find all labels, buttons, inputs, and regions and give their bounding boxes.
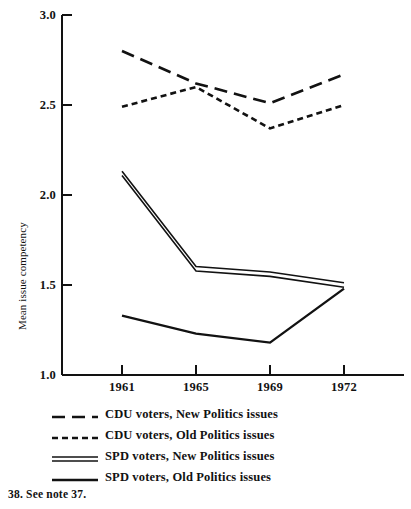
legend-item-spd-old: SPD voters, Old Politics issues xyxy=(52,467,392,488)
legend-item-cdu-new: CDU voters, New Politics issues xyxy=(52,404,392,425)
footnote-text: 38. See note 37. xyxy=(8,488,86,500)
legend-item-spd-new: SPD voters, New Politics issues xyxy=(52,446,392,467)
axis-lines xyxy=(62,15,404,375)
legend-label-cdu-old: CDU voters, Old Politics issues xyxy=(105,428,275,443)
legend-swatch-long-dash xyxy=(52,409,98,421)
legend-label-spd-new: SPD voters, New Politics issues xyxy=(105,449,275,464)
series-line-0 xyxy=(122,51,344,103)
series-line-2 xyxy=(122,171,344,283)
data-series-layer xyxy=(122,51,344,343)
legend-swatch-double-solid xyxy=(52,451,98,463)
plot-area xyxy=(0,0,411,400)
figure-container: Mean issue competency 3.0 2.5 2.0 1.5 1.… xyxy=(0,0,411,509)
series-line-1 xyxy=(122,87,344,128)
legend-item-cdu-old: CDU voters, Old Politics issues xyxy=(52,425,392,446)
legend-label-spd-old: SPD voters, Old Politics issues xyxy=(105,470,271,485)
legend-swatch-short-dash xyxy=(52,430,98,442)
chart-legend: CDU voters, New Politics issues CDU vote… xyxy=(52,404,392,488)
legend-label-cdu-new: CDU voters, New Politics issues xyxy=(105,407,278,422)
legend-swatch-solid xyxy=(52,472,98,484)
series-line-3 xyxy=(122,289,344,343)
series-line-2 xyxy=(122,176,344,288)
